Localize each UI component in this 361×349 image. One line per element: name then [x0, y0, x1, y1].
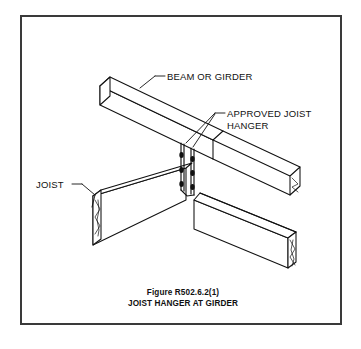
beam-label: BEAM OR GIRDER: [167, 71, 253, 82]
joist-leader-line: [72, 184, 95, 207]
hanger-nail: [179, 152, 183, 158]
hanger-nail: [179, 181, 183, 187]
figure-caption-number: Figure R502.6.2(1): [147, 288, 220, 297]
beam-top-near-edge-right: [213, 140, 290, 176]
hanger-label-line1: APPROVED JOIST: [227, 108, 311, 119]
joist-hanger-diagram: BEAM OR GIRDER APPROVED JOIST HANGER JOI…: [0, 0, 361, 349]
figure-root: BEAM OR GIRDER APPROVED JOIST HANGER JOI…: [0, 0, 361, 349]
hanger-nail: [190, 184, 194, 190]
hanger-nail: [179, 167, 183, 173]
hanger-nail: [190, 156, 194, 162]
joist-right-end-face: [288, 232, 296, 268]
beam-leader-line: [140, 76, 165, 88]
joist-label: JOIST: [36, 179, 64, 190]
hanger-label-line2: HANGER: [227, 120, 269, 131]
figure-caption-title: JOIST HANGER AT GIRDER: [128, 299, 238, 308]
hanger-nail: [190, 170, 194, 176]
beam-top-far-edge: [223, 131, 300, 167]
beam-bottom-near-edge-right: [213, 159, 290, 195]
joist-right-segment: [194, 193, 296, 268]
joist-left-segment: [93, 163, 192, 245]
